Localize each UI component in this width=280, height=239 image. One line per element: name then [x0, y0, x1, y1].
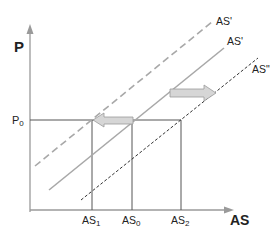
x-axis-label: AS [230, 212, 249, 228]
shift-left-arrow-icon [93, 113, 133, 127]
as0-label: AS0 [122, 214, 141, 228]
as-curve-dotted-label: AS" [252, 63, 270, 75]
p0-label: P0 [12, 114, 24, 128]
as1-label: AS1 [82, 214, 101, 228]
as-curve-dotted [81, 58, 258, 200]
as-curve-dashed-label: AS' [216, 15, 232, 27]
y-axis-arrow-icon [27, 24, 34, 34]
as2-label: AS2 [171, 214, 190, 228]
aggregate-supply-diagram: P AS P0 AS1 AS0 AS2 AS' AS' AS" [0, 0, 280, 239]
y-axis [27, 24, 34, 212]
as-curve-solid-label: AS' [227, 35, 243, 47]
y-axis-label: P [14, 38, 24, 55]
as-curve-solid [49, 48, 224, 190]
shift-right-arrow-icon [170, 85, 216, 101]
